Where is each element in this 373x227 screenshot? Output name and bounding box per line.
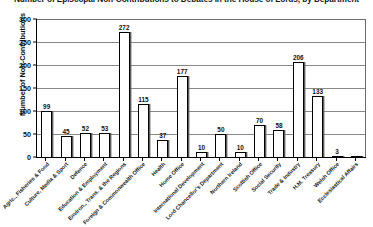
bar[interactable]: 50 (215, 134, 226, 157)
bar-value-label: 272 (119, 24, 130, 31)
bar-value-label: 45 (62, 128, 69, 135)
x-label-slot: Trade & Industry (288, 161, 307, 227)
bar-value-label: 177 (177, 68, 188, 75)
bar[interactable]: 133 (312, 96, 323, 157)
bar[interactable]: 272 (119, 32, 130, 157)
x-label-slot: Foreign & Commonwealth Office (133, 161, 152, 227)
bar[interactable]: 53 (99, 133, 110, 157)
bar[interactable]: 52 (80, 133, 91, 157)
x-axis-labels: Agric., Fisheries & FoodCulture, Media &… (36, 161, 365, 227)
bar-slot: 272 (114, 19, 133, 157)
bar-slot: 70 (250, 19, 269, 157)
bar-slot: 37 (153, 19, 172, 157)
bar-slot: 99 (37, 19, 56, 157)
bar-slot: 45 (56, 19, 75, 157)
x-tick-mark (297, 157, 298, 161)
bar-value-label: 133 (312, 88, 323, 95)
y-tick-label: 300 (1, 15, 31, 24)
bar-slot: 53 (95, 19, 114, 157)
x-tick-mark (84, 157, 85, 161)
x-label-slot: Scottish Office (249, 161, 268, 227)
bar-slot: 50 (211, 19, 230, 157)
y-tick-label: 50 (1, 130, 31, 139)
bar-value-label: 115 (138, 96, 148, 103)
x-tick-mark (142, 157, 143, 161)
bar-value-label: 206 (293, 54, 304, 61)
bar-slot (347, 19, 366, 157)
bar-slot: 58 (269, 19, 288, 157)
bar[interactable]: 45 (61, 136, 72, 157)
y-tick-label: 100 (1, 107, 31, 116)
x-category-label: Health (150, 161, 166, 177)
bar-slot: 52 (76, 19, 95, 157)
bar-value-label: 50 (217, 126, 224, 133)
bar-value-label: 3 (335, 148, 339, 155)
bar-value-label: 52 (82, 125, 89, 132)
bar-slot: 133 (308, 19, 327, 157)
bar-value-label: 10 (237, 144, 244, 151)
y-tick-label: 150 (1, 84, 31, 93)
bar-slot: 177 (173, 19, 192, 157)
x-label-slot: Northern Ireland (230, 161, 249, 227)
bar[interactable]: 177 (177, 76, 188, 157)
y-tick-label: 0 (1, 153, 31, 162)
x-tick-mark (355, 157, 356, 161)
bar-value-label: 70 (256, 117, 263, 124)
bar-slot: 10 (231, 19, 250, 157)
bar[interactable]: 99 (41, 111, 52, 157)
bar-slot: 3 (327, 19, 346, 157)
bar-slot: 10 (192, 19, 211, 157)
bar[interactable]: 70 (254, 125, 265, 157)
bar[interactable]: 37 (157, 140, 168, 157)
bar-value-label: 37 (159, 132, 166, 139)
bar-series: 994552532721153717710501070582061333 (37, 19, 366, 157)
bar-chart-figure: Number of Non-Contributions 050100150200… (0, 0, 373, 227)
x-label-slot: Ecclesiastical Affairs (346, 161, 365, 227)
y-tick-label: 250 (1, 38, 31, 47)
y-tick-label: 200 (1, 61, 31, 70)
bar-value-label: 53 (101, 125, 108, 132)
bar-slot: 115 (134, 19, 153, 157)
bar-value-label: 10 (198, 144, 205, 151)
bar[interactable]: 58 (273, 130, 284, 157)
bar-value-label: 58 (275, 122, 282, 129)
bar[interactable]: 115 (138, 104, 149, 157)
bar-value-label: 99 (43, 103, 50, 110)
bar[interactable]: 206 (293, 62, 304, 157)
bar-slot: 206 (289, 19, 308, 157)
plot-area: 050100150200250300 994552532721153717710… (36, 19, 366, 158)
